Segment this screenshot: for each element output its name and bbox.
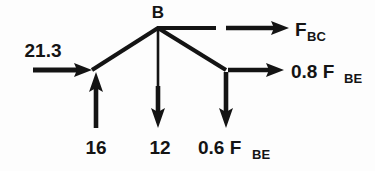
- force-21-3-label: 21.3: [25, 40, 62, 61]
- force-arrow-21-3: [33, 63, 92, 77]
- force-12-label: 12: [149, 137, 170, 158]
- free-body-diagram: 21.3 16 12 F BC 0.8 F BE: [0, 0, 375, 171]
- force-16-label: 16: [85, 137, 106, 158]
- force-arrow-f-bc: [226, 21, 289, 35]
- force-arrow-0-6-f-be: [219, 72, 233, 128]
- member-bc-diagonal: [158, 28, 226, 70]
- force-arrow-16: [89, 72, 103, 128]
- diagram-canvas: 21.3 16 12 F BC 0.8 F BE: [0, 0, 375, 171]
- force-f-bc-label: F: [295, 19, 307, 40]
- truss-members: [92, 28, 226, 88]
- force-0-6-f-be-subscript: BE: [252, 147, 270, 162]
- joint-label-b: B: [152, 3, 164, 22]
- force-arrow-12: [151, 86, 165, 128]
- force-0-8-f-be-label: 0.8 F: [291, 61, 334, 82]
- force-0-6-f-be-label: 0.6 F: [198, 137, 241, 158]
- force-arrow-0-8-f-be: [228, 63, 284, 77]
- force-f-bc-subscript: BC: [307, 29, 326, 44]
- member-ab: [92, 28, 158, 70]
- force-0-8-f-be-subscript: BE: [344, 71, 362, 86]
